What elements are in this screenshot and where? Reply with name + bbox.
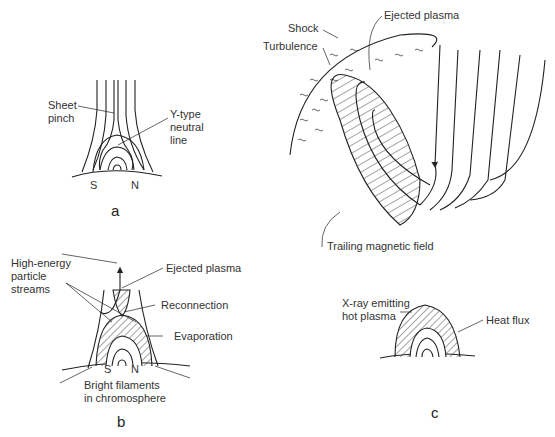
shock-leader [323, 30, 338, 38]
label-pole-s-b: S [104, 363, 111, 376]
label-ejected-plasma-c: Ejected plasma [384, 9, 459, 22]
diagram-canvas [0, 0, 555, 437]
label-xray-hot-plasma: X-ray emitting hot plasma [342, 297, 410, 323]
label-ejected-plasma-b: Ejected plasma [166, 262, 241, 275]
label-evaporation: Evaporation [174, 330, 233, 343]
panel-c-field-lines [420, 45, 545, 210]
panel-c-plasmoid [331, 75, 430, 225]
label-trailing-magnetic-field: Trailing magnetic field [327, 240, 434, 253]
label-turbulence: Turbulence [263, 40, 318, 53]
turbulence-leader [323, 48, 330, 65]
sheet-pinch-leader [78, 106, 114, 113]
label-high-energy-streams: High-energy particle streams [11, 257, 71, 296]
neutral-line-leader [118, 118, 168, 145]
label-sheet-pinch: Sheet pinch [48, 99, 77, 125]
reconnection-leader [124, 305, 155, 312]
ejected-plasma-b-leader [122, 268, 163, 288]
label-reconnection: Reconnection [161, 299, 228, 312]
panel-caption-c: c [431, 404, 439, 421]
label-pole-n-a: N [131, 179, 139, 192]
panel-b-field-lines [62, 270, 190, 370]
bright-filament-leader-right [155, 366, 190, 378]
label-pole-n-b: N [131, 363, 139, 376]
label-y-type-neutral-line: Y-type neutral line [170, 108, 204, 147]
label-shock: Shock [288, 22, 319, 35]
panel-caption-a: a [111, 202, 119, 219]
label-pole-s-a: S [90, 179, 97, 192]
particle-streams-leader-2 [66, 283, 112, 322]
panel-caption-b: b [117, 413, 125, 430]
heat-flux-leader [458, 320, 483, 332]
label-bright-filaments: Bright filaments in chromosphere [84, 379, 166, 405]
label-heat-flux: Heat flux [486, 314, 529, 327]
